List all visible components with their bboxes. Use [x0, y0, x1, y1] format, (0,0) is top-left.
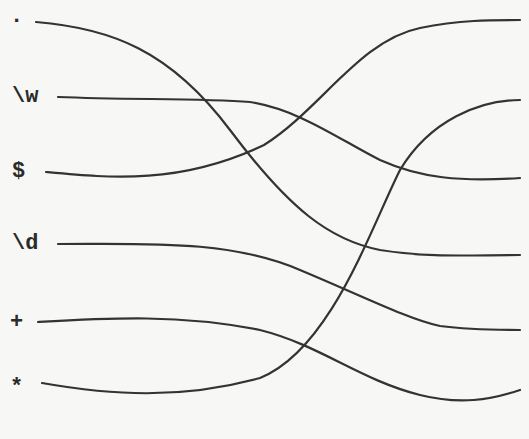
matching-diagram: . \w $ \d + * — [0, 0, 529, 439]
connection-lines — [0, 0, 529, 439]
line-digit — [58, 244, 520, 330]
line-word-char — [58, 97, 520, 179]
line-star — [42, 100, 520, 393]
line-dot — [36, 22, 520, 256]
line-plus — [38, 318, 520, 400]
